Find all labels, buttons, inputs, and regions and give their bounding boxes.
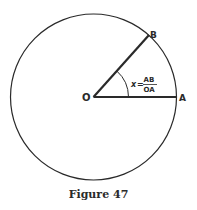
formula-denominator: OA: [144, 86, 156, 94]
label-B: B: [150, 30, 157, 40]
figure-caption: Figure 47: [0, 188, 197, 201]
angle-formula: x = AB OA: [130, 76, 157, 94]
circle-diagram: O A B x = AB OA: [0, 0, 197, 210]
angle-arc: [117, 71, 129, 97]
formula-variable: x: [130, 80, 137, 89]
formula-numerator: AB: [144, 76, 155, 84]
label-A: A: [179, 93, 186, 103]
label-O: O: [82, 92, 91, 103]
